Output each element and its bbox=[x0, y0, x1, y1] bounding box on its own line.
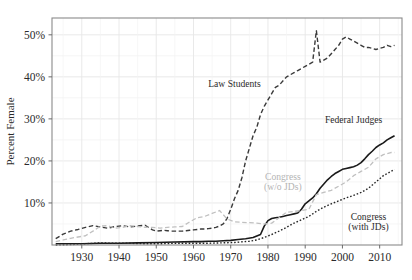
chart-container: 10%20%30%40%50%1930194019501960197019801… bbox=[0, 0, 412, 280]
ytick-label: 40% bbox=[24, 71, 46, 83]
series-annotation-1: Law Students bbox=[208, 78, 261, 89]
ytick-label: 30% bbox=[24, 113, 46, 125]
xtick-label: 1970 bbox=[219, 251, 242, 263]
ytick-label: 10% bbox=[24, 197, 46, 209]
xtick-label: 1930 bbox=[70, 251, 93, 263]
series-annotation-3: Congress(w/o JDs) bbox=[264, 171, 302, 194]
xtick-label: 1960 bbox=[182, 251, 205, 263]
ytick-label: 20% bbox=[24, 155, 46, 167]
series-annotation-4: Congress(with JDs) bbox=[348, 211, 388, 234]
plot-background bbox=[52, 18, 402, 245]
xtick-label: 1980 bbox=[256, 251, 279, 263]
xtick-label: 1940 bbox=[108, 251, 131, 263]
series-annotation-2: Federal Judges bbox=[325, 114, 383, 125]
ytick-label: 50% bbox=[24, 29, 46, 41]
line-chart: 10%20%30%40%50%1930194019501960197019801… bbox=[0, 0, 412, 280]
xtick-label: 2010 bbox=[368, 251, 391, 263]
y-axis-label: Percent Female bbox=[4, 97, 16, 165]
xtick-label: 1990 bbox=[294, 251, 317, 263]
xtick-label: 2000 bbox=[331, 251, 354, 263]
xtick-label: 1950 bbox=[145, 251, 168, 263]
